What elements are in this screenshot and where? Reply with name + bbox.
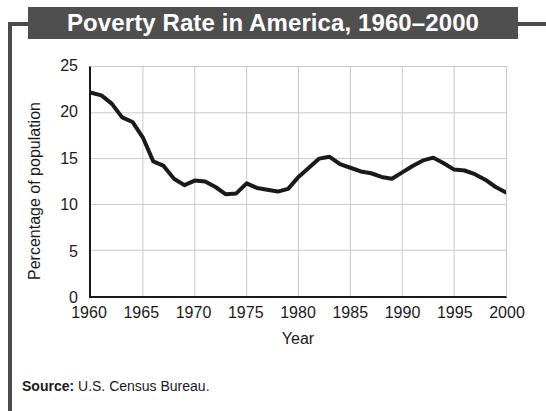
x-tick-label: 1980 <box>280 304 316 322</box>
page-title: Poverty Rate in America, 1960–2000 <box>67 9 479 37</box>
y-tick-label: 5 <box>46 243 78 261</box>
x-tick-label: 1965 <box>123 304 159 322</box>
x-tick-label: 1975 <box>228 304 264 322</box>
source-value: U.S. Census Bureau. <box>74 378 209 394</box>
y-tick-label: 25 <box>46 57 78 75</box>
y-tick-label: 10 <box>46 196 78 214</box>
y-axis-tick-labels: 0510152025 <box>46 66 78 298</box>
chart-page: Poverty Rate in America, 1960–2000 05101… <box>0 0 546 411</box>
x-axis-title: Year <box>89 330 507 348</box>
x-axis-tick-labels: 196019651970197519801985199019952000 <box>89 304 507 326</box>
y-tick-label: 20 <box>46 103 78 121</box>
x-tick-label: 1985 <box>332 304 368 322</box>
x-tick-label: 2000 <box>489 304 525 322</box>
source-label: Source: <box>22 378 74 394</box>
line-chart: 0510152025 19601965197019751980198519901… <box>0 40 546 370</box>
x-tick-label: 1990 <box>385 304 421 322</box>
plot-area <box>89 66 507 298</box>
y-tick-label: 15 <box>46 150 78 168</box>
x-tick-label: 1970 <box>176 304 212 322</box>
x-tick-label: 1995 <box>437 304 473 322</box>
source-note: Source: U.S. Census Bureau. <box>22 378 210 394</box>
title-banner: Poverty Rate in America, 1960–2000 <box>28 7 518 39</box>
x-tick-label: 1960 <box>71 304 107 322</box>
y-axis-title: Percentage of population <box>26 86 44 296</box>
series-poverty-rate <box>91 67 506 296</box>
